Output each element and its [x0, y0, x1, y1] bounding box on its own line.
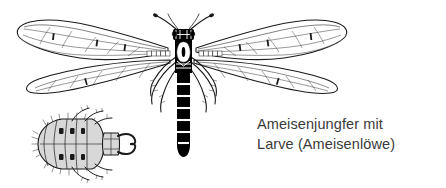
head — [172, 29, 195, 40]
figure-caption: Ameisenjungfer mit Larve (Ameisenlöwe) — [257, 114, 443, 154]
antlion-illustration — [0, 0, 446, 188]
antennae-clubs — [152, 13, 214, 18]
antennae — [157, 16, 210, 29]
left-hindwing — [27, 60, 171, 93]
antlion-figure: Ameisenjungfer mit Larve (Ameisenlöwe) — [0, 0, 446, 188]
caption-line-2: Larve (Ameisenlöwe) — [257, 134, 443, 154]
left-forewing — [17, 20, 168, 59]
antlion-larva — [32, 105, 135, 183]
larva-mandibles — [118, 134, 135, 154]
eye-right — [190, 32, 195, 37]
right-hindwing — [194, 60, 338, 93]
thorax — [175, 40, 192, 73]
eye-left — [172, 32, 177, 37]
caption-line-1: Ameisenjungfer mit — [257, 114, 443, 134]
abdomen — [177, 72, 190, 157]
